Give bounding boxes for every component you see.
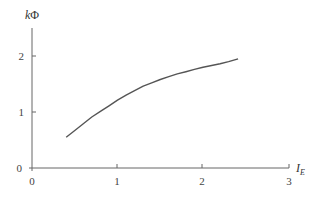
chart: 0 1 2 3 0 1 2 kΦ IE xyxy=(0,0,322,198)
x-axis-title: IE xyxy=(295,161,305,177)
x-ticks: 0 1 2 3 xyxy=(29,164,292,187)
y-tick-label: 0 xyxy=(17,162,23,174)
x-tick-label: 3 xyxy=(286,175,292,187)
x-tick-label: 2 xyxy=(199,175,205,187)
y-ticks: 0 1 2 xyxy=(17,50,37,174)
y-axis-title: kΦ xyxy=(25,8,39,22)
x-tick-label: 0 xyxy=(29,175,35,187)
data-line xyxy=(66,59,238,137)
x-tick-label: 1 xyxy=(114,175,120,187)
y-tick-label: 1 xyxy=(19,106,25,118)
y-tick-label: 2 xyxy=(19,50,25,62)
